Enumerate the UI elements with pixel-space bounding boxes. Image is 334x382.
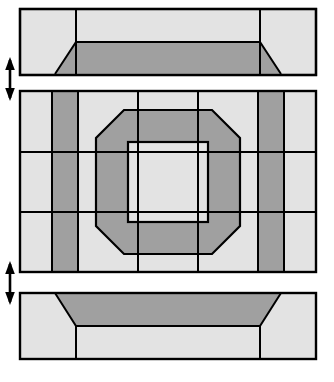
bottom-plate (20, 293, 316, 359)
diagram-root (0, 0, 334, 382)
cross-section-diagram (0, 0, 334, 382)
core-plate (20, 91, 316, 272)
top-plate (20, 9, 316, 75)
left-dark-band (52, 91, 78, 272)
square-core (128, 142, 208, 222)
right-dark-band (258, 91, 284, 272)
bottom-band-main (76, 293, 260, 326)
top-band-main (76, 42, 260, 74)
